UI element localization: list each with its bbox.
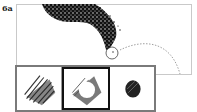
ring-brush-icon	[64, 69, 108, 108]
brush-swatch-strip	[15, 65, 156, 112]
swatch-ring-brush[interactable]	[62, 67, 110, 110]
solid-brush-icon	[17, 67, 61, 110]
small-round-brush-icon	[110, 67, 154, 110]
swatch-small-round-brush[interactable]	[110, 67, 154, 110]
swatch-solid-brush[interactable]	[17, 67, 62, 110]
brush-cursor-icon	[106, 47, 118, 59]
